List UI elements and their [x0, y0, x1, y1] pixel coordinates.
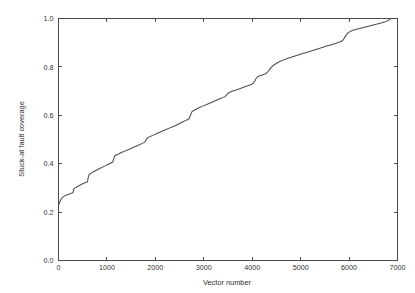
y-tick-label: 0.6	[44, 111, 54, 120]
y-axis-title: Stuck-at fault coverage	[17, 101, 26, 177]
y-tick-label: 0.4	[44, 159, 54, 168]
x-tick-label: 1000	[99, 263, 115, 272]
y-axis-tick-labels: 0.00.20.40.60.81.0	[44, 14, 54, 265]
x-axis-ticks	[59, 19, 398, 261]
x-tick-label: 5000	[293, 263, 309, 272]
x-tick-label: 3000	[196, 263, 212, 272]
axes-frame	[59, 19, 398, 261]
y-tick-label: 1.0	[44, 14, 54, 23]
x-tick-label: 7000	[390, 263, 406, 272]
y-tick-label: 0.2	[44, 208, 54, 217]
x-tick-label: 6000	[341, 263, 357, 272]
x-axis-title: Vector number	[203, 278, 252, 287]
x-tick-label: 2000	[147, 263, 163, 272]
x-tick-label: 4000	[244, 263, 260, 272]
y-axis-ticks	[59, 19, 398, 261]
y-tick-label: 0.8	[44, 63, 54, 72]
y-tick-label: 0.0	[44, 256, 54, 265]
line-chart-svg: 01000200030004000500060007000 0.00.20.40…	[0, 0, 415, 293]
coverage-curve	[59, 19, 391, 205]
x-axis-tick-labels: 01000200030004000500060007000	[57, 263, 406, 272]
x-tick-label: 0	[57, 263, 61, 272]
chart-figure: 01000200030004000500060007000 0.00.20.40…	[0, 0, 415, 293]
